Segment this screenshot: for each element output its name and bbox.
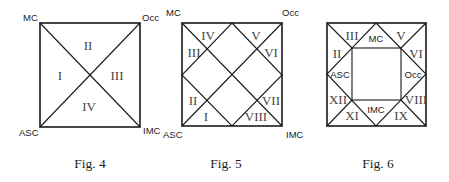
fig6-label-imc: IMC bbox=[367, 104, 385, 115]
fig6-label-mc: MC bbox=[369, 33, 384, 44]
fig5-house-iv: IV bbox=[201, 28, 215, 43]
fig5-house-i: I bbox=[204, 109, 208, 124]
fig4-label-imc: IMC bbox=[143, 125, 161, 136]
fig4-label-asc: ASC bbox=[19, 127, 39, 138]
fig4-label-occ: Occ bbox=[142, 12, 159, 23]
fig5-house-viii: VIII bbox=[245, 109, 267, 124]
fig6-label-occ: Occ bbox=[405, 69, 422, 80]
fig6-house-ii: II bbox=[333, 46, 342, 61]
fig6-house-iii: III bbox=[346, 28, 359, 43]
fig5-label-imc: IMC bbox=[286, 129, 304, 140]
fig5-house-iii: III bbox=[188, 45, 201, 60]
fig5-label-occ: Occ bbox=[282, 7, 299, 18]
fig4-house-iii: III bbox=[111, 68, 124, 83]
figure-5: MC Occ ASC IMC IV V III VI II VII I VIII… bbox=[163, 7, 304, 171]
fig5-house-vii: VII bbox=[262, 93, 280, 108]
fig5-label-asc: ASC bbox=[163, 129, 183, 140]
fig4-label-mc: MC bbox=[23, 12, 38, 23]
fig6-house-viii: VIII bbox=[405, 92, 427, 107]
fig4-house-i: I bbox=[58, 68, 62, 83]
figure-4: MC Occ ASC IMC II I III IV Fig. 4 bbox=[19, 12, 161, 171]
fig5-house-vi: VI bbox=[264, 45, 278, 60]
fig5-label-mc: MC bbox=[166, 7, 181, 18]
fig6-label-asc: ASC bbox=[330, 69, 350, 80]
fig6-inner-square bbox=[352, 48, 401, 100]
fig5-house-v: V bbox=[251, 28, 261, 43]
fig6-house-xi: XI bbox=[345, 108, 359, 123]
fig5-caption: Fig. 5 bbox=[210, 156, 242, 171]
fig4-caption: Fig. 4 bbox=[74, 156, 106, 171]
fig6-caption: Fig. 6 bbox=[362, 156, 394, 171]
fig6-house-xii: XII bbox=[329, 92, 347, 107]
fig6-house-ix: IX bbox=[394, 108, 408, 123]
figure-6: MC ASC Occ IMC III V II VI XII VIII XI I… bbox=[327, 23, 427, 171]
fig6-house-v: V bbox=[396, 28, 406, 43]
figures-canvas: MC Occ ASC IMC II I III IV Fig. 4 MC Occ… bbox=[0, 0, 449, 182]
fig5-house-ii: II bbox=[189, 93, 198, 108]
fig4-house-iv: IV bbox=[82, 99, 96, 114]
fig4-house-ii: II bbox=[84, 38, 93, 53]
fig6-house-vi: VI bbox=[409, 46, 423, 61]
